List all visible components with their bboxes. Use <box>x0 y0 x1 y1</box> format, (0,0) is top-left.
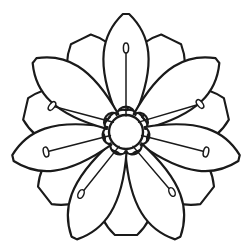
center-disc-circle <box>109 115 143 149</box>
stamen-top-anther <box>123 43 128 53</box>
flower-illustration <box>0 0 252 248</box>
flower-center <box>109 115 143 149</box>
artwork-canvas <box>0 0 252 248</box>
